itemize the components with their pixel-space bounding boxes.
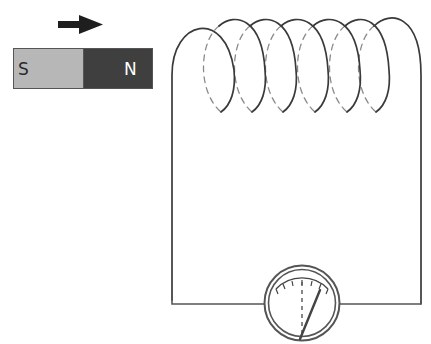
arrow-right-icon (58, 15, 103, 34)
north-pole-label: N (124, 59, 137, 79)
coil (172, 18, 421, 304)
bar-magnet: S N (14, 49, 153, 89)
magnet-north-pole (84, 49, 153, 89)
south-pole-label: S (18, 59, 29, 79)
induction-diagram: S N (0, 0, 431, 344)
galvanometer-icon (265, 266, 340, 341)
